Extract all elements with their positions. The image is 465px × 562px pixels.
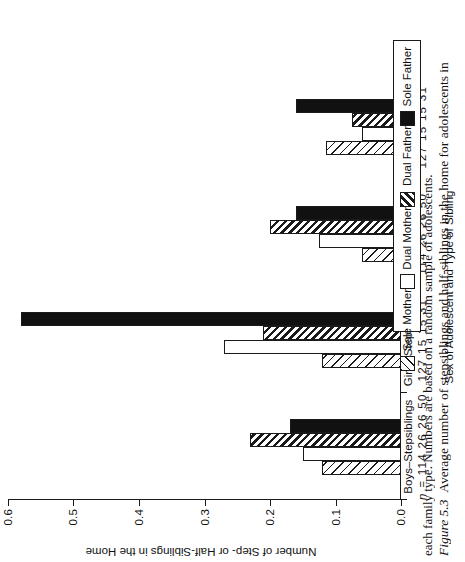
figure-number: Figure 5.3: [436, 500, 451, 557]
bar-dual-father: [270, 220, 401, 234]
caption-line-1: Figure 5.3 Average number of stepsibling…: [436, 8, 452, 556]
legend-item: Sole Mother: [400, 289, 415, 371]
y-tick-label: 0.1: [330, 509, 342, 526]
y-tick: [401, 500, 402, 506]
legend-label: Sole Father: [401, 47, 413, 106]
bar-dual-mother: [224, 340, 401, 354]
bar-sole-mother: [326, 141, 401, 155]
y-tick-label: 0.6: [2, 509, 14, 526]
legend-label: Dual Father: [401, 126, 413, 186]
y-tick-label: 0.5: [67, 509, 79, 526]
legend-swatch: [400, 111, 415, 126]
caption-line-2: each family type. Numbers are based on a…: [420, 8, 436, 556]
bar-dual-mother: [303, 447, 401, 461]
legend-swatch: [400, 356, 415, 371]
bar-sole-mother: [322, 354, 401, 368]
y-tick: [270, 500, 271, 506]
legend-label: Sole Mother: [401, 289, 413, 351]
legend-swatch: [400, 274, 415, 289]
bar-group: [8, 287, 401, 394]
bar-dual-father: [263, 326, 401, 340]
legend-swatch: [400, 192, 415, 207]
y-tick: [336, 500, 337, 506]
figure-page: Number of Step- or Half-Siblings in the …: [0, 0, 465, 562]
y-tick: [205, 500, 206, 506]
bar-sole-mother: [322, 461, 401, 475]
category-name: Boys–Stepsiblings: [401, 393, 415, 500]
y-tick-label: 0.0: [395, 509, 407, 526]
legend: Sole MotherDual MotherDual FatherSole Fa…: [393, 40, 421, 332]
plot-area: 0.00.10.20.30.40.50.6: [8, 74, 401, 500]
bar-dual-father: [250, 433, 401, 447]
bar-groups: [8, 74, 401, 500]
bar-group: [8, 394, 401, 501]
legend-item: Dual Mother: [400, 207, 415, 290]
y-tick: [8, 500, 9, 506]
legend-item: Dual Father: [400, 126, 415, 206]
caption-text-1: Average number of stepsiblings and half-…: [436, 62, 451, 493]
figure-caption: Figure 5.3 Average number of stepsibling…: [424, 8, 458, 556]
bar-sole-father: [296, 99, 401, 113]
bar-group: [8, 74, 401, 181]
y-axis-title: Number of Step- or Half-Siblings in the …: [0, 542, 401, 562]
y-tick-label: 0.2: [264, 509, 276, 526]
legend-item: Sole Father: [400, 47, 415, 126]
legend-label: Dual Mother: [401, 207, 413, 270]
bar-sole-father: [290, 419, 401, 433]
y-tick: [73, 500, 74, 506]
bar-sole-father: [296, 206, 401, 220]
y-tick-label: 0.4: [133, 509, 145, 526]
y-tick-label: 0.3: [199, 509, 211, 526]
bar-group: [8, 181, 401, 288]
y-tick: [139, 500, 140, 506]
bar-dual-mother: [319, 234, 401, 248]
bar-sole-father: [21, 312, 401, 326]
